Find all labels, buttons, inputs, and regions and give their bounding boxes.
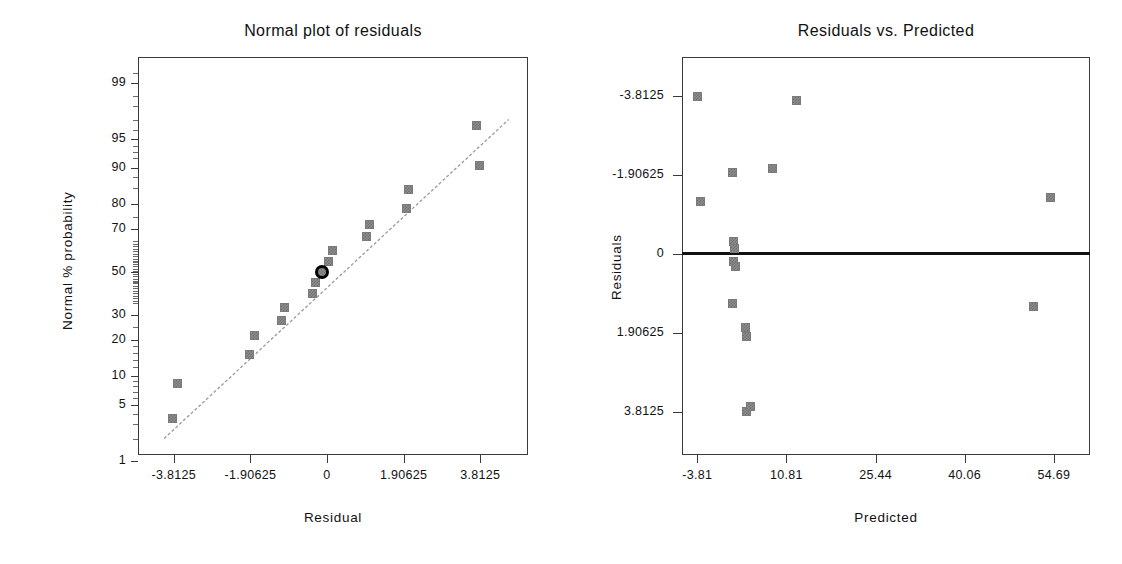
y-axis-minor-tick — [133, 288, 138, 289]
y-axis-minor-tick — [133, 106, 138, 107]
y-axis-tick — [131, 340, 138, 341]
data-point-marker — [1029, 302, 1038, 311]
data-point-marker — [250, 331, 259, 340]
y-axis-tick — [673, 175, 682, 176]
data-point-marker — [365, 220, 374, 229]
residuals-vs-predicted-panel: Residuals vs. Predicted 3.81251.906250-1… — [561, 0, 1122, 564]
y-axis-tick-label: 10 — [80, 368, 126, 382]
y-axis-minor-tick — [133, 367, 138, 368]
y-axis-tick-label: 5 — [80, 397, 126, 411]
y-axis-minor-tick — [133, 217, 138, 218]
y-axis-minor-tick — [133, 296, 138, 297]
y-axis-minor-tick — [133, 246, 138, 247]
y-axis-minor-tick — [133, 256, 138, 257]
normal-plot-panel: Normal plot of residuals 151020305070809… — [0, 0, 561, 564]
x-axis-tick-label: 54.69 — [1004, 468, 1104, 482]
data-point-marker — [746, 402, 755, 411]
y-axis-tick — [131, 461, 138, 462]
y-axis-minor-tick — [133, 262, 138, 263]
data-point-marker — [245, 350, 254, 359]
data-point-marker — [696, 197, 705, 206]
y-axis-tick-label: 70 — [80, 221, 126, 235]
y-axis-minor-tick — [133, 271, 138, 272]
x-axis-tick — [876, 455, 877, 463]
y-axis-minor-tick — [133, 276, 138, 277]
normal-plot-y-axis-title: Normal % probability — [60, 191, 75, 330]
data-point-marker — [402, 204, 411, 213]
x-axis-tick — [174, 455, 175, 463]
y-axis-tick — [131, 315, 138, 316]
y-axis-minor-tick — [133, 251, 138, 252]
data-point-marker — [277, 316, 286, 325]
data-point-marker — [404, 185, 413, 194]
y-axis-tick — [131, 83, 138, 84]
y-axis-tick — [673, 333, 682, 334]
data-point-marker — [168, 414, 177, 423]
data-point-marker — [728, 168, 737, 177]
data-point-marker — [742, 332, 751, 341]
residuals-zero-reference-line — [682, 252, 1090, 255]
y-axis-minor-tick — [133, 269, 138, 270]
data-point-marker — [311, 278, 320, 287]
data-point-marker — [362, 232, 371, 241]
figure-root: Normal plot of residuals 151020305070809… — [0, 0, 1122, 564]
y-axis-tick-label: -3.8125 — [590, 88, 664, 102]
data-point-marker — [328, 246, 337, 255]
data-point-marker — [173, 379, 182, 388]
y-axis-minor-tick — [133, 254, 138, 255]
x-axis-tick-label: 25.44 — [826, 468, 926, 482]
y-axis-minor-tick — [133, 414, 138, 415]
y-axis-tick — [673, 96, 682, 97]
y-axis-minor-tick — [133, 259, 138, 260]
y-axis-tick — [131, 168, 138, 169]
y-axis-tick-label: 90 — [80, 160, 126, 174]
y-axis-minor-tick — [133, 264, 138, 265]
y-axis-tick — [131, 272, 138, 273]
data-point-marker — [280, 303, 289, 312]
y-axis-tick-label: -1.90625 — [590, 167, 664, 181]
x-axis-tick-label: 40.06 — [915, 468, 1015, 482]
y-axis-minor-tick — [133, 274, 138, 275]
y-axis-minor-tick — [133, 424, 138, 425]
x-axis-tick — [327, 455, 328, 463]
y-axis-tick — [673, 412, 682, 413]
y-axis-minor-tick — [133, 381, 138, 382]
data-point-marker — [324, 257, 333, 266]
x-axis-tick-label: 10.81 — [736, 468, 836, 482]
y-axis-minor-tick — [133, 298, 138, 299]
y-axis-minor-tick — [133, 188, 138, 189]
y-axis-minor-tick — [133, 266, 138, 267]
data-point-marker — [730, 244, 739, 253]
y-axis-minor-tick — [133, 398, 138, 399]
y-axis-tick-label: 95 — [80, 131, 126, 145]
residuals-plot-x-axis-title: Predicted — [682, 510, 1090, 525]
x-axis-tick — [965, 455, 966, 463]
normal-plot-x-axis-title: Residual — [138, 510, 528, 525]
residuals-plot-frame — [682, 57, 1090, 455]
y-axis-minor-tick — [133, 152, 138, 153]
data-point-marker — [768, 164, 777, 173]
normal-plot-title: Normal plot of residuals — [138, 22, 528, 40]
x-axis-tick — [480, 455, 481, 463]
data-point-marker — [792, 96, 801, 105]
y-axis-minor-tick — [133, 392, 138, 393]
y-axis-tick-label: 20 — [80, 332, 126, 346]
y-axis-minor-tick — [133, 303, 138, 304]
y-axis-tick-label: 99 — [80, 75, 126, 89]
y-axis-minor-tick — [133, 244, 138, 245]
normal-probability-reference-line — [138, 57, 528, 455]
y-axis-tick-label: 50 — [80, 264, 126, 278]
y-axis-minor-tick — [133, 279, 138, 280]
y-axis-minor-tick — [133, 158, 138, 159]
y-axis-minor-tick — [133, 241, 138, 242]
data-point-marker — [472, 121, 481, 130]
x-axis-tick — [404, 455, 405, 463]
x-axis-tick — [697, 455, 698, 463]
y-axis-tick — [131, 376, 138, 377]
y-axis-minor-tick — [133, 360, 138, 361]
data-point-marker — [731, 262, 740, 271]
y-axis-tick-label: 80 — [80, 196, 126, 210]
y-axis-tick-label: 1 — [80, 453, 126, 467]
data-point-marker — [1046, 193, 1055, 202]
x-axis-tick — [1054, 455, 1055, 463]
